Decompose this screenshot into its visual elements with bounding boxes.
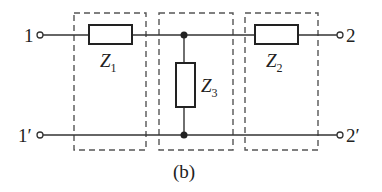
figure-caption: (b): [173, 161, 195, 183]
z2-label: Z2: [266, 50, 283, 75]
two-port-network-diagram: 1 1′ 2 2′ Z1 Z2 Z3 (b): [0, 0, 382, 192]
terminal-1-label: 1: [24, 25, 34, 46]
z1-resistor-icon: [89, 25, 132, 44]
z2-resistor-icon: [255, 25, 298, 44]
terminal-2-label: 2: [346, 25, 356, 46]
z3-resistor-icon: [176, 63, 195, 107]
z3-label: Z3: [201, 75, 218, 100]
terminal-2-icon: [337, 32, 343, 38]
junction-top-icon: [181, 32, 188, 39]
terminal-2prime-icon: [337, 132, 343, 138]
z1-label: Z1: [100, 50, 117, 75]
terminal-1prime-icon: [37, 132, 43, 138]
junction-bottom-icon: [181, 132, 188, 139]
terminal-1prime-label: 1′: [18, 125, 32, 146]
terminal-2prime-label: 2′: [346, 125, 360, 146]
terminal-1-icon: [37, 32, 43, 38]
